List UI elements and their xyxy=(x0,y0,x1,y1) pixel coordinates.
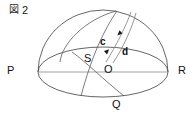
point-label-o: O xyxy=(104,64,113,75)
figure-caption-number: 2 xyxy=(22,5,28,16)
vector-label-c: c xyxy=(100,37,106,47)
figure-caption: 図 2 xyxy=(8,5,28,16)
point-label-r: R xyxy=(178,65,186,76)
arrow-head-d xyxy=(117,30,122,35)
vector-label-d: d xyxy=(122,47,128,57)
point-label-p: P xyxy=(7,65,14,76)
figure-container: 図 2 P R Q S O c d xyxy=(0,0,196,120)
point-label-s: S xyxy=(84,53,91,64)
arrow-head-c xyxy=(104,49,109,54)
hemisphere-diagram-svg xyxy=(0,0,196,120)
point-label-q: Q xyxy=(112,99,121,110)
figure-caption-glyph: 図 xyxy=(8,5,19,16)
